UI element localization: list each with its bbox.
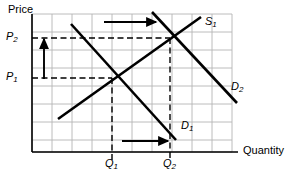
s1-subscript: 1 bbox=[212, 20, 216, 29]
demand-curve-label-d1: D1 bbox=[181, 120, 193, 131]
price-tick-label-p2: P2 bbox=[6, 31, 18, 42]
d1-base: D bbox=[181, 119, 189, 131]
q1-base: Q bbox=[105, 157, 114, 169]
quantity-axis-title: Quantity bbox=[243, 145, 284, 156]
price-axis-title: Price bbox=[8, 4, 33, 15]
d1-subscript: 1 bbox=[189, 124, 193, 133]
supply-demand-figure: Price Quantity P2 P1 Q1 Q2 S1 D1 D2 bbox=[0, 0, 300, 181]
curve-d2 bbox=[152, 12, 237, 103]
price-tick-label-p1: P1 bbox=[6, 71, 18, 82]
quantity-tick-label-q2: Q2 bbox=[163, 158, 176, 169]
q1-subscript: 1 bbox=[114, 162, 118, 171]
p2-subscript: 2 bbox=[13, 35, 17, 44]
supply-curve-label-s1: S1 bbox=[205, 16, 217, 27]
quantity-tick-label-q1: Q1 bbox=[105, 158, 118, 169]
curve-d1 bbox=[71, 24, 176, 140]
d2-subscript: 2 bbox=[239, 85, 243, 94]
q2-base: Q bbox=[163, 157, 172, 169]
demand-curve-label-d2: D2 bbox=[231, 81, 243, 92]
p1-subscript: 1 bbox=[13, 75, 17, 84]
d2-base: D bbox=[231, 80, 239, 92]
curve-lines bbox=[58, 12, 237, 140]
q2-subscript: 2 bbox=[172, 162, 176, 171]
grid-lines bbox=[32, 14, 232, 152]
shift-arrows bbox=[44, 22, 168, 141]
axis-lines bbox=[32, 14, 238, 152]
